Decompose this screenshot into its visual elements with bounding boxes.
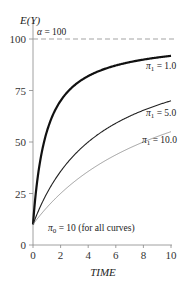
x-tick-label: 4 [85, 249, 91, 261]
y-tick-label: 75 [15, 85, 27, 97]
y-tick-label: 100 [10, 33, 27, 45]
alpha-label: α = 100 [37, 27, 67, 37]
x-tick-label: 10 [166, 249, 178, 261]
pi0-annotation: π0 = 10 (for all curves) [48, 223, 135, 235]
chart: 0255075100 0246810 α = 100 π1 = 1.0 π1 =… [0, 0, 185, 291]
x-axis-title: TIME [90, 266, 116, 278]
y-tick-label: 25 [15, 188, 27, 200]
y-tick-label: 0 [21, 239, 27, 251]
label-pi1-10: π1 = 10.0 [142, 135, 177, 147]
x-tick-label: 2 [58, 249, 64, 261]
y-axis-title: E(Y) [19, 14, 41, 27]
label-pi1-1: π1 = 1.0 [146, 61, 176, 73]
curve-pi1-10 [33, 132, 171, 225]
x-tick-label: 6 [113, 249, 119, 261]
label-pi1-5: π1 = 5.0 [146, 108, 176, 120]
y-ticks: 0255075100 [10, 33, 34, 251]
y-tick-label: 50 [15, 136, 27, 148]
x-tick-label: 0 [30, 249, 36, 261]
x-tick-label: 8 [141, 249, 147, 261]
x-ticks: 0246810 [30, 245, 177, 261]
